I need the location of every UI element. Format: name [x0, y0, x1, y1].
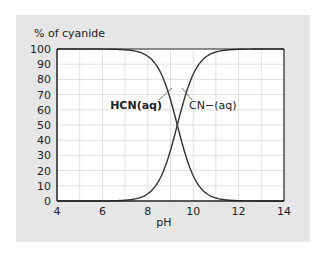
x-tick-label: 14: [277, 205, 291, 218]
y-tick-label: 30: [37, 149, 51, 162]
x-tick-labels: 468101214: [54, 205, 292, 218]
y-tick-label: 10: [37, 180, 51, 193]
y-tick-label: 70: [37, 89, 51, 102]
y-tick-label: 20: [37, 165, 51, 178]
y-tick-label: 90: [37, 58, 51, 71]
x-tick-label: 12: [232, 205, 246, 218]
x-axis-label: pH: [156, 216, 171, 229]
x-tick-label: 8: [144, 205, 151, 218]
cn-label: CN−(aq): [189, 99, 236, 112]
y-tick-label: 40: [37, 134, 51, 147]
y-tick-label: 100: [30, 43, 51, 56]
y-axis-label: % of cyanide: [34, 27, 105, 40]
y-tick-labels: 0102030405060708090100: [30, 43, 51, 208]
y-tick-label: 0: [44, 195, 51, 208]
y-tick-label: 60: [37, 104, 51, 117]
chart: 0102030405060708090100 468101214 % of cy…: [0, 0, 325, 255]
x-tick-label: 4: [54, 205, 61, 218]
y-tick-label: 80: [37, 73, 51, 86]
y-tick-label: 50: [37, 119, 51, 132]
x-tick-label: 10: [186, 205, 200, 218]
hcn-label: HCN(aq): [110, 99, 162, 112]
x-tick-label: 6: [99, 205, 106, 218]
